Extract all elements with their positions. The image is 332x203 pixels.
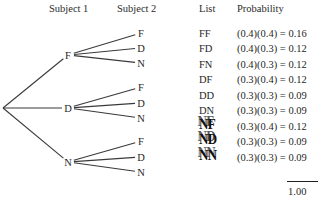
tree-node-level2-d-7: D	[137, 152, 145, 163]
tree-edge-root-to-f-0	[3, 59, 63, 108]
tree-branch-lines	[0, 0, 180, 203]
tree-node-level1-n-2: N	[64, 157, 72, 168]
outcome-probability-dn: (0.3)(0.3) = 0.09	[237, 105, 307, 117]
outcome-probability-df: (0.3)(0.4) = 0.12	[237, 74, 307, 86]
outcome-list-nd: ND	[199, 132, 217, 146]
tree-node-level2-n-8: N	[137, 167, 145, 178]
tree-node-level2-n-5: N	[137, 113, 145, 124]
outcome-list-df: DF	[199, 74, 212, 86]
probability-total: 1.00	[288, 186, 306, 198]
outcome-probability-dd: (0.3)(0.3) = 0.09	[237, 90, 307, 102]
outcome-probability-nn: (0.3)(0.3) = 0.09	[237, 152, 307, 164]
probability-tree-diagram-figure: Subject 1 Subject 2 List Probability FDN…	[0, 0, 332, 203]
outcome-list-fd: FD	[199, 43, 212, 55]
tree-node-level1-f-0: F	[65, 50, 71, 61]
tree-node-level2-d-4: D	[137, 98, 145, 109]
outcome-probability-fn: (0.4)(0.3) = 0.12	[237, 59, 307, 71]
tree-node-level2-f-3: F	[138, 82, 144, 93]
outcome-list-dd: DD	[199, 90, 214, 102]
tree-edge-f-to-f-0	[74, 35, 136, 54]
outcome-probability-nd: (0.3)(0.3) = 0.09	[237, 136, 307, 148]
tree-node-level2-f-6: F	[138, 136, 144, 147]
tree-edge-d-to-n-5	[74, 109, 135, 117]
tree-diagram: FDNFDNFDNFDN	[0, 0, 180, 203]
tree-node-level2-d-1: D	[137, 43, 145, 54]
outcome-list-ff: FF	[199, 28, 211, 40]
sum-rule-divider	[287, 181, 318, 182]
outcome-probability-table: FF(0.4)(0.4) = 0.16FD(0.4)(0.3) = 0.12FN…	[180, 0, 332, 203]
tree-node-level1-d-1: D	[64, 103, 72, 114]
tree-edge-n-to-n-8	[74, 163, 135, 171]
outcome-list-nn: NN	[199, 148, 217, 162]
outcome-probability-ff: (0.4)(0.4) = 0.16	[237, 28, 307, 40]
outcome-probability-nf: (0.3)(0.4) = 0.12	[237, 121, 307, 133]
tree-edge-f-to-n-2	[74, 56, 135, 63]
tree-node-level2-n-2: N	[137, 58, 145, 69]
tree-edge-f-to-d-1	[74, 49, 135, 55]
tree-node-level2-f-0: F	[138, 28, 144, 39]
outcome-probability-fd: (0.4)(0.3) = 0.12	[237, 43, 307, 55]
outcome-list-fn: FN	[199, 59, 212, 71]
tree-edge-root-to-n-2	[3, 108, 63, 158]
